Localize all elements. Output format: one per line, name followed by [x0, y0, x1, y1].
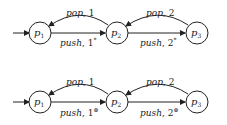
label-pop-1: pop, 1	[66, 77, 94, 87]
state-p1: p1	[29, 91, 51, 113]
label-pop-2: pop, 2	[146, 77, 174, 87]
label-push-2: push, 2*	[140, 36, 176, 48]
label-push-1: push, 1*	[60, 36, 96, 48]
automata-diagram: p1 p2 p3 pop, 1 pop, 2 push, 1* push, 2*…	[0, 0, 227, 125]
label-push-2: push, 2⊛	[140, 106, 178, 118]
state-p2: p2	[106, 91, 128, 113]
automaton-top: p1 p2 p3 pop, 1 pop, 2 push, 1* push, 2*	[13, 8, 208, 48]
label-pop-1: pop, 1	[66, 8, 94, 18]
label-push-1: push, 1⊛	[60, 106, 98, 118]
state-p3: p3	[186, 91, 208, 113]
state-p3: p3	[186, 22, 208, 44]
state-p1: p1	[29, 22, 51, 44]
state-p2: p2	[106, 22, 128, 44]
label-pop-2: pop, 2	[146, 8, 174, 18]
automaton-bottom: p1 p2 p3 pop, 1 pop, 2 push, 1⊛ push, 2⊛	[13, 77, 208, 118]
